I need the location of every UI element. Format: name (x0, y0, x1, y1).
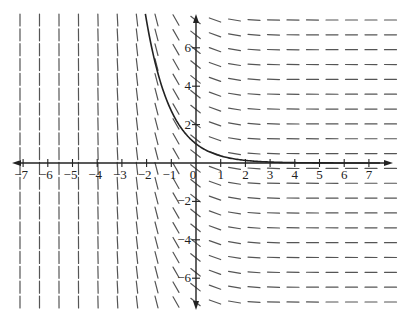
slope-segment (155, 14, 158, 26)
y-tick-label: −6 (177, 270, 191, 285)
slope-segments (20, 14, 397, 308)
slope-segment (229, 93, 241, 95)
slope-segment (136, 192, 137, 204)
slope-segment (136, 103, 137, 115)
slope-segment (173, 134, 179, 144)
slope-segment (155, 29, 158, 41)
slope-segment (136, 44, 137, 56)
slope-segment (136, 252, 137, 264)
slope-segment (136, 296, 137, 308)
slope-segment (155, 296, 158, 308)
x-tick-label: −1 (162, 167, 176, 182)
slope-segment (117, 73, 118, 85)
slope-segment (248, 168, 260, 169)
x-tick-label: 4 (292, 167, 299, 182)
slope-segment (155, 252, 158, 264)
slope-segment (209, 255, 220, 259)
x-tick-label: 5 (316, 167, 323, 182)
slope-segment (248, 287, 260, 288)
slope-segment (173, 74, 179, 84)
y-axis-arrow-down-icon (193, 301, 199, 310)
slope-segment (209, 92, 220, 96)
slope-segment (229, 301, 241, 303)
slope-segment (173, 15, 179, 25)
slope-segment (248, 153, 260, 154)
slope-segment (136, 237, 137, 249)
slope-segment (117, 133, 118, 145)
slope-segment (173, 252, 179, 262)
slope-segment (136, 222, 137, 234)
slope-segment (117, 296, 118, 308)
slope-segment (173, 104, 179, 114)
slope-segment (229, 257, 241, 259)
slope-segment (229, 78, 241, 80)
slope-segment (173, 59, 179, 69)
slope-segment (209, 211, 220, 215)
slope-segment (136, 118, 137, 130)
slope-segment (155, 103, 158, 115)
slope-segment (248, 79, 260, 80)
slope-segment (209, 241, 220, 245)
slope-segment (248, 272, 260, 273)
slope-segment (155, 222, 158, 234)
slope-segment (248, 109, 260, 110)
slope-segment (117, 207, 118, 219)
slope-segment (136, 266, 137, 278)
slope-segment (248, 138, 260, 139)
x-axis-arrow-right-icon (384, 160, 393, 166)
slope-segment (209, 122, 220, 126)
slope-segment (248, 183, 260, 184)
slope-segment (209, 270, 220, 274)
slope-segment (173, 148, 179, 158)
y-tick-label: 6 (185, 40, 192, 55)
slope-segment (155, 237, 158, 249)
slope-segment (229, 108, 241, 110)
slope-segment (117, 88, 118, 100)
slope-segment (248, 213, 260, 214)
slope-segment (248, 302, 260, 303)
slope-segment (209, 285, 220, 289)
slope-segment (229, 49, 241, 51)
slope-segment (173, 89, 179, 99)
x-tick-label: −5 (64, 167, 78, 182)
slope-segment (117, 251, 118, 263)
slope-field-figure: −7−6−5−4−3−2−101234567 −6−4−2246 (0, 0, 405, 324)
slope-segment (229, 197, 241, 199)
x-tick-label: −7 (14, 167, 28, 182)
slope-segment (136, 148, 137, 160)
slope-segment (155, 133, 158, 145)
slope-segment (229, 64, 241, 66)
slope-segment (229, 153, 241, 155)
x-tick-label: 7 (366, 167, 373, 182)
slope-segment (248, 20, 260, 21)
slope-segment (117, 266, 118, 278)
slope-segment (173, 30, 179, 40)
slope-segment (209, 107, 220, 111)
slope-segment (248, 227, 260, 228)
slope-segment (209, 33, 220, 37)
slope-segment (117, 103, 118, 115)
slope-segment (229, 227, 241, 229)
slope-segment (117, 148, 118, 160)
x-tick-label: 1 (217, 167, 224, 182)
slope-segment (209, 48, 220, 52)
slope-segment (155, 163, 158, 175)
slope-segment (229, 182, 241, 184)
slope-segment (155, 148, 158, 160)
slope-segment (117, 237, 118, 249)
slope-segment (117, 14, 118, 26)
slope-segment (155, 74, 158, 86)
slope-segment (155, 118, 158, 130)
slope-segment (155, 281, 158, 293)
slope-segment (117, 59, 118, 71)
slope-segment (248, 198, 260, 199)
y-tick-label: 2 (185, 117, 192, 132)
slope-segment (229, 167, 241, 169)
slope-segment (155, 207, 158, 219)
slope-segment (117, 281, 118, 293)
slope-segment (229, 286, 241, 288)
x-tick-label: −4 (88, 167, 102, 182)
slope-segment (117, 222, 118, 234)
slope-segment (209, 300, 220, 304)
slope-segment (229, 212, 241, 214)
